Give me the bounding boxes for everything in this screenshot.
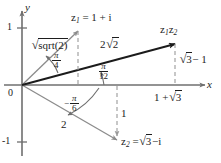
origin-label: 0 [8, 88, 13, 98]
sqrt-3-real: √3 [168, 91, 181, 103]
z1z2-subscript-second: 2 [174, 28, 178, 37]
projection-label-imaginary-part: √3− 1 [179, 53, 207, 65]
angle-label-pi-over-12: π 12 [99, 62, 108, 82]
z1-imaginary-unit: i [109, 11, 112, 23]
magnitude-label-z2: 2 [61, 119, 67, 130]
z1-equals-real: = 1 + [82, 11, 105, 23]
radicand: 3 [186, 52, 192, 65]
radicand: 2 [112, 37, 118, 50]
x-axis-label: x [207, 79, 212, 90]
projection-label-real-part: 1 +√3 [154, 91, 182, 103]
point-label-z1z2: z1z2 [160, 24, 177, 37]
radical-sign-icon: √ [32, 38, 39, 52]
y-tick-label-one: 1 [7, 22, 12, 32]
radicand: 3 [175, 90, 181, 103]
point-label-z2: z2 =√3−i [121, 135, 161, 149]
z2-subscript: 2 [126, 140, 130, 149]
imag-tail: − 1 [192, 53, 206, 65]
fraction-denominator: 6 [70, 104, 79, 113]
magnitude-label-z1z2: 2√2 [100, 38, 119, 50]
argand-diagram-figure: y x 1 -1 0 z1 = 1 + i √sqrt(2) π 4 z1z2 … [0, 0, 221, 163]
sqrt-2-z1: √sqrt(2) [31, 39, 68, 51]
fraction-pi-6: π 6 [70, 94, 79, 114]
radical-sign-icon: √ [180, 52, 187, 66]
sqrt-2-z1z2: √2 [106, 38, 119, 50]
radicand: 3 [146, 134, 152, 147]
angle-label-negative-pi-over-6: − π 6 [64, 94, 79, 114]
radical-sign-icon: √ [139, 134, 146, 148]
fraction-pi-4: π 4 [52, 51, 61, 71]
projection-label-z2-imaginary: 1 [121, 108, 127, 119]
point-label-z1: z1 = 1 + i [71, 12, 112, 25]
y-axis-label: y [25, 2, 30, 13]
y-tick-label-negative-one: -1 [2, 136, 10, 146]
radical-sign-icon: √ [106, 37, 113, 51]
magnitude-label-z1: √sqrt(2) [31, 39, 68, 51]
sqrt-3-imag: √3 [179, 53, 192, 65]
fraction-denominator: 12 [99, 72, 108, 81]
z2-imaginary-unit: i [158, 135, 161, 147]
radical-sign-icon: √ [169, 90, 176, 104]
angle-label-pi-over-4: π 4 [52, 51, 61, 71]
z1-subscript: 1 [76, 16, 80, 25]
fraction-denominator: 4 [52, 61, 61, 70]
sqrt-3-z2: √3 [139, 135, 152, 147]
real-prefix: 1 + [154, 91, 168, 103]
fraction-pi-12: π 12 [99, 62, 108, 82]
